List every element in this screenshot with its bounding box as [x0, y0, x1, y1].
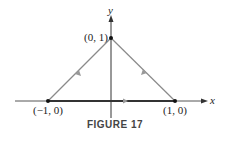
- point-label-left: (−1, 0): [33, 104, 63, 116]
- point-top: [109, 36, 113, 40]
- point-left: [46, 99, 50, 103]
- point-label-top: (0, 1): [84, 31, 108, 43]
- y-axis-label: y: [108, 4, 113, 16]
- direction-arrow-base-icon: [123, 99, 128, 104]
- x-axis-label: x: [210, 94, 215, 106]
- triangle-left-side: [48, 38, 111, 101]
- figure-caption: FIGURE 17: [0, 119, 230, 130]
- point-label-right: (1, 0): [163, 104, 187, 116]
- x-axis-arrow-icon: [201, 99, 208, 104]
- point-right: [173, 99, 177, 103]
- y-axis-arrow-icon: [109, 15, 114, 22]
